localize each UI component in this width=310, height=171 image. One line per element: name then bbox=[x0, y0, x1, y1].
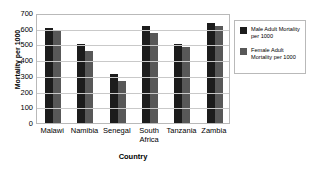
chart-legend: Male Adult Mortality per 1000 Female Adu… bbox=[234, 20, 306, 74]
y-tick-label: 500 bbox=[3, 41, 33, 49]
bar bbox=[118, 81, 126, 123]
x-tick-label: Tanzania bbox=[165, 126, 197, 135]
legend-label-male: Male Adult Mortality per 1000 bbox=[251, 26, 300, 40]
gridline bbox=[37, 93, 229, 94]
y-tick-label: 0 bbox=[3, 120, 33, 128]
y-tick-label: 700 bbox=[3, 10, 33, 18]
bar bbox=[182, 47, 190, 123]
x-tick-label: Namibia bbox=[68, 126, 100, 135]
legend-swatch-female-icon bbox=[240, 48, 247, 55]
bar bbox=[77, 44, 85, 123]
gridline bbox=[37, 108, 229, 109]
legend-item-female: Female Adult Mortality per 1000 bbox=[240, 47, 301, 61]
x-tick-label: South Africa bbox=[133, 126, 165, 144]
bar bbox=[174, 44, 182, 123]
y-tick-label: 600 bbox=[3, 26, 33, 34]
legend-label-female: Female Adult Mortality per 1000 bbox=[251, 47, 296, 61]
x-tick-label: Malawi bbox=[36, 126, 68, 135]
legend-swatch-male-icon bbox=[240, 27, 247, 34]
plot-area bbox=[36, 14, 230, 124]
x-axis-title: Country bbox=[36, 152, 230, 161]
gridline bbox=[37, 77, 229, 78]
bar-chart: Mortality per 1000 010020030040050060070… bbox=[0, 0, 310, 171]
x-tick-label: Senegal bbox=[101, 126, 133, 135]
y-tick-label: 100 bbox=[3, 104, 33, 112]
y-tick-label: 400 bbox=[3, 57, 33, 65]
gridline bbox=[37, 45, 229, 46]
gridline bbox=[37, 61, 229, 62]
bar bbox=[110, 74, 118, 124]
bar-groups bbox=[37, 15, 229, 123]
y-axis-tick-labels: 0100200300400500600700 bbox=[0, 14, 33, 124]
y-tick-label: 300 bbox=[3, 73, 33, 81]
bar bbox=[150, 33, 158, 123]
y-tick-label: 200 bbox=[3, 89, 33, 97]
x-axis-tick-labels: MalawiNamibiaSenegalSouth AfricaTanzania… bbox=[36, 126, 230, 148]
gridline bbox=[37, 30, 229, 31]
legend-item-male: Male Adult Mortality per 1000 bbox=[240, 26, 301, 40]
x-tick-label: Zambia bbox=[198, 126, 230, 135]
